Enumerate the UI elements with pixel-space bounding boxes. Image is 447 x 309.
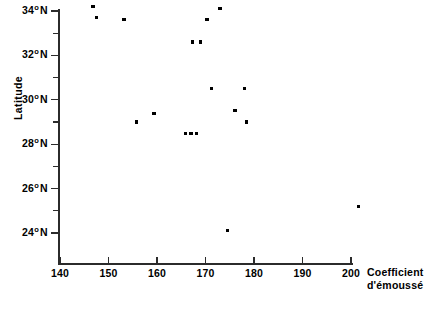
- scatter-plot-figure: Latitude Coefficient d'émoussé 34oN32oN3…: [0, 0, 447, 309]
- data-point: [189, 132, 192, 135]
- data-point: [233, 109, 236, 112]
- data-point: [199, 40, 202, 43]
- data-point: [95, 16, 98, 19]
- data-point: [152, 112, 155, 115]
- data-point: [122, 18, 125, 21]
- scatter-points-layer: [0, 0, 447, 309]
- data-point: [357, 205, 360, 208]
- data-point: [205, 18, 208, 21]
- data-point: [243, 87, 246, 90]
- data-point: [226, 229, 229, 232]
- data-point: [184, 132, 187, 135]
- data-point: [191, 40, 194, 43]
- data-point: [135, 120, 138, 123]
- data-point: [218, 7, 221, 10]
- data-point: [91, 5, 94, 8]
- data-point: [195, 132, 198, 135]
- data-point: [210, 87, 213, 90]
- data-point: [245, 120, 248, 123]
